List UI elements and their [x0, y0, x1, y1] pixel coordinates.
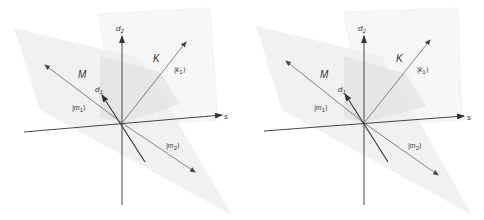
- label-s: s: [467, 113, 471, 122]
- diagram-left: d2 d1 s M K |k1⟩ |m1⟩ |m2⟩: [0, 0, 242, 220]
- label-M: M: [320, 69, 329, 80]
- label-s: s: [224, 112, 228, 121]
- stereo-panel-right: d2 d1 s M K |k1⟩ |m1⟩ |m2⟩: [242, 0, 484, 220]
- diagram-right: d2 d1 s M K |k1⟩ |m1⟩ |m2⟩: [242, 0, 484, 220]
- stereo-panel-left: d2 d1 s M K |k1⟩ |m1⟩ |m2⟩: [0, 0, 242, 220]
- label-M: M: [78, 69, 87, 80]
